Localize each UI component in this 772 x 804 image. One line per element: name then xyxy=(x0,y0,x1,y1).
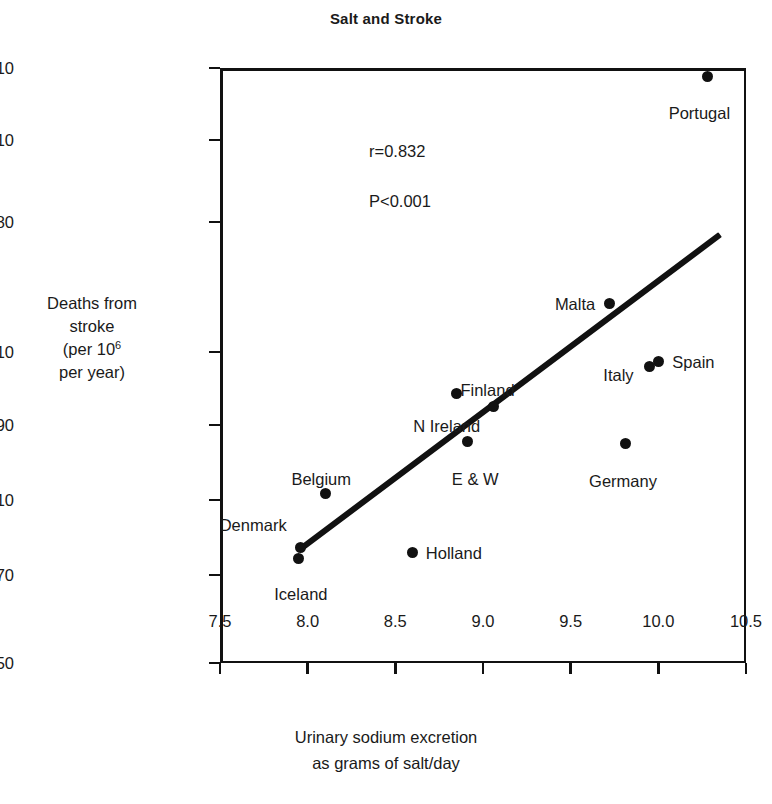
data-point-label: Germany xyxy=(589,472,657,491)
data-point-label: Portugal xyxy=(669,104,730,123)
data-point xyxy=(462,436,473,447)
chart-annotation: P<0.001 xyxy=(369,192,431,211)
x-tick xyxy=(745,663,748,674)
y-axis-line xyxy=(220,68,223,663)
data-point xyxy=(293,553,304,564)
data-point xyxy=(644,361,655,372)
x-axis-title-line2: as grams of salt/day xyxy=(0,750,772,776)
y-tick-label: 2210 xyxy=(0,59,14,78)
y-tick xyxy=(209,424,220,427)
x-tick-label: 9.5 xyxy=(559,612,582,631)
data-point-label: Belgium xyxy=(291,470,351,489)
y-axis-title-line2: stroke xyxy=(8,315,176,338)
y-axis-title: Deaths from stroke (per 106 per year) xyxy=(8,292,176,384)
data-point xyxy=(702,71,713,82)
y-axis-title-line1: Deaths from xyxy=(8,292,176,315)
y-tick xyxy=(209,351,220,354)
x-axis-title-line1: Urinary sodium excretion xyxy=(0,724,772,750)
y-axis-title-exponent: 6 xyxy=(115,339,121,351)
y-axis-title-line3: (per 106 xyxy=(8,338,176,361)
y-tick-label: 550 xyxy=(0,654,14,673)
y-tick-label: 1210 xyxy=(0,343,14,362)
data-point-label: Holland xyxy=(426,543,482,562)
chart-annotation: r=0.832 xyxy=(369,142,425,161)
y-tick xyxy=(209,221,220,224)
y-tick xyxy=(209,139,220,142)
plot-area: PortugalMaltaSpainItalyFinlandN IrelandE… xyxy=(220,68,746,663)
chart-title: Salt and Stroke xyxy=(0,10,772,27)
data-point-label: N Ireland xyxy=(413,417,480,436)
y-tick-label: 670 xyxy=(0,566,14,585)
y-tick xyxy=(209,67,220,70)
y-tick xyxy=(209,574,220,577)
data-point xyxy=(295,542,306,553)
x-tick xyxy=(219,663,222,674)
data-point-label: Iceland xyxy=(274,585,327,604)
x-tick xyxy=(394,663,397,674)
data-point-label: Italy xyxy=(603,365,633,384)
chart-figure: Salt and Stroke Deaths from stroke (per … xyxy=(0,0,772,804)
x-tick-label: 9.0 xyxy=(472,612,495,631)
x-tick-label: 7.5 xyxy=(209,612,232,631)
y-tick-label: 810 xyxy=(0,491,14,510)
data-point-label: Spain xyxy=(672,352,714,371)
data-point-label: Denmark xyxy=(220,516,287,535)
data-point xyxy=(620,438,631,449)
data-point xyxy=(604,298,615,309)
y-tick-label: 1810 xyxy=(0,131,14,150)
y-axis-title-line4: per year) xyxy=(8,361,176,384)
x-axis-title: Urinary sodium excretion as grams of sal… xyxy=(0,724,772,776)
y-axis-title-line3-text: (per 10 xyxy=(63,340,115,358)
x-tick xyxy=(482,663,485,674)
data-point xyxy=(407,547,418,558)
data-point-label: Finland xyxy=(460,381,514,400)
data-point xyxy=(488,401,499,412)
x-tick xyxy=(657,663,660,674)
x-tick-label: 8.5 xyxy=(384,612,407,631)
y-tick xyxy=(209,499,220,502)
plot-frame-right xyxy=(744,68,747,663)
data-point xyxy=(320,488,331,499)
data-point-label: E & W xyxy=(452,470,499,489)
y-tick-label: 990 xyxy=(0,416,14,435)
data-point-label: Malta xyxy=(555,294,595,313)
x-tick xyxy=(569,663,572,674)
y-tick-label: 1480 xyxy=(0,213,14,232)
x-tick-label: 8.0 xyxy=(296,612,319,631)
x-tick-label: 10.5 xyxy=(730,612,762,631)
x-tick xyxy=(306,663,309,674)
x-tick-label: 10.0 xyxy=(642,612,674,631)
plot-frame-top xyxy=(220,68,746,71)
